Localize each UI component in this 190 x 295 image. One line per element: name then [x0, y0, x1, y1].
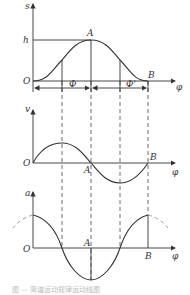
s-axis-label: s: [25, 1, 30, 11]
velocity-panel: [33, 110, 175, 183]
motion-diagram: s h A O B φ Φ Φ' v O A B φ a O A B φ: [0, 0, 190, 295]
acceleration-extension: [13, 215, 168, 228]
interval-phi-prime-label: Φ': [126, 79, 136, 89]
origin-label-a: O: [23, 244, 31, 254]
point-b-label-a: B: [144, 251, 152, 261]
guide-lines: [62, 81, 148, 280]
v-axis-label: v: [25, 104, 30, 114]
figure-caption: 图 — 简谐运动规律运动线图: [12, 284, 182, 294]
acceleration-panel: [33, 192, 175, 280]
phi-axis-label-a: φ: [172, 251, 179, 261]
point-b-label-v: B: [149, 152, 157, 162]
point-a-label: A: [86, 28, 94, 38]
origin-label-v: O: [23, 158, 31, 168]
point-a-label-v: A: [83, 165, 91, 175]
a-axis-label: a: [25, 188, 30, 198]
point-a-label-a: A: [83, 238, 91, 248]
phi-axis-label: φ: [176, 82, 183, 92]
interval-phi-label: Φ: [69, 79, 76, 89]
h-label: h: [23, 35, 29, 45]
origin-label: O: [23, 76, 31, 86]
point-b-label: B: [147, 70, 155, 80]
phi-axis-label-v: φ: [172, 167, 179, 177]
